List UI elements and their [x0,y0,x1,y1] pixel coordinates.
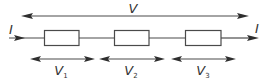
voltage-label-3: V3 [196,63,209,80]
voltage-label-2: V2 [124,63,137,80]
current-in-label: I [9,22,13,37]
resistor-3 [186,31,222,46]
voltage-arrow-2 [99,56,165,62]
resistor-2 [115,31,150,46]
voltage-arrow-1 [30,56,95,62]
series-circuit-diagram: V I I V1 V2 V3 [0,0,267,83]
voltage-arrow-3 [171,56,236,62]
current-out-label: I [255,21,259,36]
total-voltage-label: V [129,1,139,16]
resistor-1 [45,31,80,46]
voltage-label-1: V1 [54,63,67,80]
